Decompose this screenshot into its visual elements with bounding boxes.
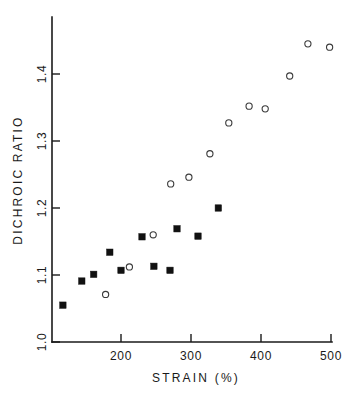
data-point-filled-square bbox=[118, 267, 124, 273]
y-tick-label: 1.0 bbox=[35, 333, 49, 351]
y-axis-title: DICHROIC RATIO bbox=[11, 115, 25, 244]
data-point-open-circle bbox=[150, 232, 156, 238]
data-point-filled-square bbox=[107, 249, 113, 255]
data-point-open-circle bbox=[103, 291, 109, 297]
data-series-filled-squares bbox=[60, 205, 222, 309]
x-axis-tick-labels: 200300400500 bbox=[110, 349, 342, 363]
y-tick-label: 1.4 bbox=[35, 65, 49, 83]
x-tick-label: 300 bbox=[180, 349, 202, 363]
data-point-open-circle bbox=[168, 181, 174, 187]
data-point-open-circle bbox=[287, 73, 293, 79]
y-axis-tick-labels: 1.01.11.21.31.4 bbox=[35, 65, 49, 351]
data-point-open-circle bbox=[246, 103, 252, 109]
data-point-open-circle bbox=[207, 151, 213, 157]
data-point-filled-square bbox=[195, 233, 201, 239]
y-tick-label: 1.1 bbox=[35, 266, 49, 284]
y-tick-label: 1.3 bbox=[35, 132, 49, 150]
data-point-filled-square bbox=[167, 267, 173, 273]
x-tick-label: 500 bbox=[320, 349, 342, 363]
dichroic-ratio-scatter-figure: 1.01.11.21.31.4 200300400500 DICHROIC RA… bbox=[0, 0, 361, 395]
data-point-open-circle bbox=[126, 264, 132, 270]
data-point-filled-square bbox=[60, 302, 66, 308]
data-point-open-circle bbox=[226, 120, 232, 126]
axes-group bbox=[52, 17, 332, 342]
data-point-filled-square bbox=[79, 278, 85, 284]
plot-canvas: 1.01.11.21.31.4 200300400500 DICHROIC RA… bbox=[0, 0, 361, 395]
x-axis-title: STRAIN (%) bbox=[152, 371, 240, 385]
data-point-filled-square bbox=[215, 205, 221, 211]
y-tick-label: 1.2 bbox=[35, 199, 49, 217]
data-point-open-circle bbox=[327, 44, 333, 50]
y-axis-ticks bbox=[52, 74, 60, 342]
data-point-filled-square bbox=[139, 234, 145, 240]
figure-bottom-margin bbox=[0, 385, 361, 395]
x-tick-label: 200 bbox=[110, 349, 132, 363]
x-tick-label: 400 bbox=[250, 349, 272, 363]
data-point-open-circle bbox=[186, 174, 192, 180]
data-point-filled-square bbox=[91, 271, 97, 277]
data-point-open-circle bbox=[262, 106, 268, 112]
data-series-open-circles bbox=[103, 41, 333, 298]
data-point-open-circle bbox=[305, 41, 311, 47]
data-point-filled-square bbox=[151, 263, 157, 269]
data-point-filled-square bbox=[174, 226, 180, 232]
x-axis-ticks bbox=[121, 334, 331, 342]
